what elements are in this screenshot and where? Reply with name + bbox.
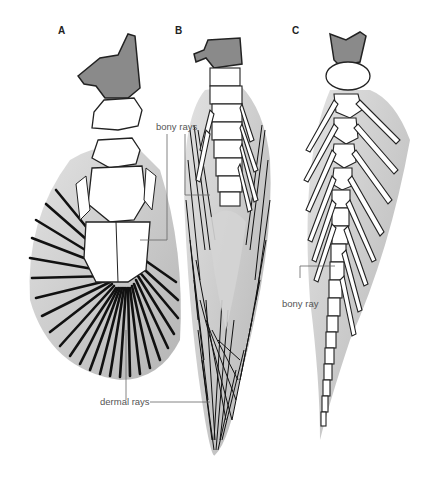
fin-c (304, 32, 410, 440)
fin-c-girdle (330, 32, 366, 66)
fin-a (30, 34, 181, 380)
fin-b (184, 38, 270, 456)
panel-label-b: B (175, 25, 182, 36)
label-bony-ray: bony ray (282, 298, 318, 309)
panel-label-c: C (292, 25, 299, 36)
label-bony-rays: bony rays (156, 121, 197, 132)
panel-label-a: A (58, 25, 65, 36)
fin-diagram (0, 0, 436, 480)
fin-b-girdle (194, 38, 242, 68)
label-dermal-rays: dermal rays (100, 396, 150, 407)
fin-a-girdle (78, 34, 140, 98)
